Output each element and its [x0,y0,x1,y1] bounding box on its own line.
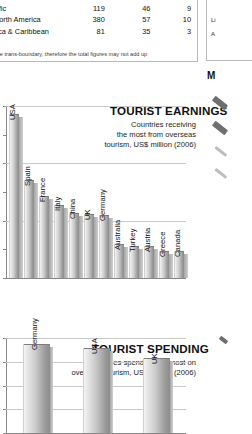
bar-label: Turkey [128,228,137,252]
bar-label: Austria [143,228,152,252]
y-axis-tick [3,362,6,363]
table-cell-region: Asia & Pacific [0,3,55,15]
y-axis-tick [3,249,6,250]
y-axis-tick [3,192,6,193]
bar [83,348,109,434]
side-panel-heading: M [207,70,216,81]
y-axis-tick [3,386,6,387]
bar-label: UK [150,353,159,364]
tourist-spending-chart: TOURIST SPENDING Countries spending the … [0,300,227,420]
bar [99,215,109,278]
bar-label: Spain [23,166,32,186]
tourist-earnings-chart: TOURIST EARNINGS Countries receiving the… [0,96,227,286]
bar-label: USA [8,104,17,120]
table-cell-value: 35 [107,27,153,39]
bar [54,205,64,278]
bar-label: Greece [158,231,167,257]
chart-plot-area: 20,00040,00060,00080,000GermanyUSAUK [6,338,186,433]
y-axis [6,106,7,278]
table-cell-region: Latin America & Caribbean [0,27,55,39]
bar-label: UK [83,209,92,220]
table-body: Arab States 22 4 1 Asia & Pacific 119 46… [0,0,197,39]
table-cell-value: 81 [55,27,107,39]
x-axis [6,278,186,279]
y-axis-tick [3,221,6,222]
bar-label: Germany [30,318,39,350]
table: Arab States 22 4 1 Asia & Pacific 119 46… [0,0,197,39]
bar [9,114,19,278]
bar-label: Canada [173,230,182,257]
gridline [6,163,186,164]
table-row: Asia & Pacific 119 46 9 [0,3,197,15]
table-cell-value: 380 [55,15,107,27]
table-row: Europe & North America 380 57 10 [0,15,197,27]
bar-label: USA [90,338,99,354]
y-axis-tick [3,278,6,279]
gridline [6,106,186,107]
table-cell-value: 46 [107,3,153,15]
bar-label: Italy [53,197,62,211]
bar [39,196,49,278]
table-bottom-rule [0,61,198,62]
y-axis-tick [3,163,6,164]
side-panel-entry: Li [211,17,216,23]
bar [24,180,34,278]
y-axis-tick [3,409,6,410]
table-row: Latin America & Caribbean 81 35 3 [0,27,197,39]
y-axis-tick [3,338,6,339]
table-cell-value: 57 [107,15,153,27]
table-cell-value: 9 [152,3,197,15]
table-cell-value: 10 [152,15,197,27]
table-cell-value: 119 [55,3,107,15]
bar-label: Australia [113,220,122,250]
table-footnote: § Some sites are trans-boundary, therefo… [0,51,198,57]
table-cell-value: 3 [152,27,197,39]
table-cell-region: Europe & North America [0,15,55,27]
chart-plot-area: 30,00060,00090,000USASpainFranceItalyChi… [6,106,186,278]
bar [69,213,79,278]
bar [84,214,94,278]
bar [23,344,49,433]
bar-label: China [68,199,77,219]
side-panel: Li A [206,0,252,61]
bar-label: France [38,178,47,202]
y-axis-tick [3,135,6,136]
bar [143,358,169,433]
bar-label: Germany [98,189,107,221]
y-axis-tick [3,106,6,107]
side-panel-entry: A [211,31,215,37]
